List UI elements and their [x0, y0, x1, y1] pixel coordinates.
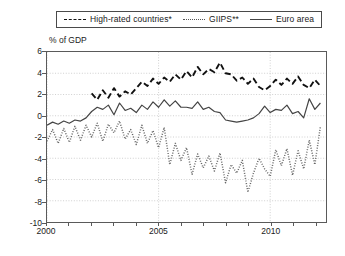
x-axis-tick-labels: 200020052010 [46, 226, 327, 240]
dotted-line-key-icon [183, 16, 205, 23]
x-axis-tick-mark [226, 222, 227, 226]
x-axis-tick-label: 2005 [149, 226, 168, 236]
series-line-giips [47, 121, 320, 192]
x-axis-tick-label: 2010 [261, 226, 280, 236]
y-axis-tick-label: -4 [16, 154, 42, 164]
x-axis-tick-mark [316, 222, 317, 226]
y-axis-tick-label: 4 [16, 68, 42, 78]
legend-item-giips: GIIPS** [183, 15, 239, 24]
y-axis-tick-label: -8 [16, 197, 42, 207]
legend-label-euro-area: Euro area [276, 15, 314, 24]
x-axis-tick-mark [248, 222, 249, 226]
y-axis-tick-labels: 6420-2-4-6-8-10 [12, 51, 42, 223]
y-axis-tick-label: 6 [16, 46, 42, 56]
plot-svg [47, 52, 326, 222]
legend-item-high-rated: High-rated countries* [64, 15, 172, 24]
x-axis-tick-mark [293, 222, 294, 226]
x-axis-tick-label: 2000 [37, 226, 56, 236]
series-line-euro-area [47, 99, 320, 126]
solid-line-key-icon [250, 16, 272, 23]
plot-area [46, 51, 327, 223]
x-axis-tick-mark [203, 222, 204, 226]
chart-legend: High-rated countries* GIIPS** Euro area [56, 11, 322, 28]
y-axis-tick-label: -6 [16, 175, 42, 185]
legend-item-euro-area: Euro area [250, 15, 314, 24]
y-axis-tick-label: 2 [16, 89, 42, 99]
chart-figure: High-rated countries* GIIPS** Euro area … [0, 0, 345, 256]
legend-label-giips: GIIPS** [209, 15, 239, 24]
x-axis-tick-mark [68, 222, 69, 226]
x-axis-tick-mark [91, 222, 92, 226]
legend-label-high-rated: High-rated countries* [90, 15, 172, 24]
x-axis-tick-mark [181, 222, 182, 226]
x-axis-tick-mark [136, 222, 137, 226]
dashed-line-key-icon [64, 16, 86, 23]
y-axis-tick-label: -2 [16, 132, 42, 142]
x-axis-tick-mark [113, 222, 114, 226]
y-axis-tick-label: 0 [16, 111, 42, 121]
y-axis-title: % of GDP [49, 35, 87, 45]
